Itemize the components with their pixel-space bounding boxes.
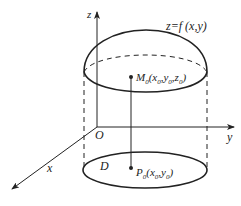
point-p0 <box>129 166 133 170</box>
point-m0 <box>129 75 133 79</box>
point-m0-label: M0(x0,y0,z0) <box>135 71 186 86</box>
region-d-label: D <box>99 159 109 173</box>
surface-rim-back <box>84 55 207 72</box>
point-p0-label: P0(x0,y0) <box>135 166 173 181</box>
z-axis-label: z <box>86 8 92 20</box>
surface-dome-top <box>84 30 207 72</box>
origin-label: O <box>95 128 104 142</box>
y-axis-label: y <box>226 130 233 144</box>
surface-label: z=f (x,y) <box>165 19 207 33</box>
surface-projection-diagram: z y x O z=f (x,y) D M0(x0,y0,z0) P0(x0,y… <box>0 0 241 206</box>
x-axis-label: x <box>46 161 53 175</box>
